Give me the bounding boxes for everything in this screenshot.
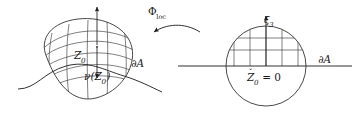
diagram-canvas <box>0 0 358 115</box>
label-phi-loc: Φloc <box>148 6 166 20</box>
nu-symbol: ν(Z <box>84 70 102 82</box>
label-boundary-left: ∂A <box>131 58 144 69</box>
label-Z0-equals-zero: ˇZ0 = 0 <box>247 72 281 85</box>
curvilinear-grid <box>39 20 140 100</box>
accent-mark: ˇ <box>248 69 252 77</box>
phi-loc-arrow-group <box>154 25 200 32</box>
phi-subscript: loc <box>156 13 166 21</box>
label-boundary-right: ∂A <box>318 54 331 65</box>
nu-subscript: 0 <box>102 77 107 86</box>
Z-subscript-right: 0 <box>254 78 259 87</box>
label-Z0-left: Z0 <box>74 50 86 63</box>
point-Z0-marker <box>96 46 98 48</box>
nu-close-paren: ) <box>106 70 110 82</box>
set-A-left: A <box>136 57 144 69</box>
set-A-right: A <box>323 53 331 65</box>
label-xi3-axis: ξ3 <box>264 15 274 28</box>
Z-equation-right: = 0 <box>259 71 281 83</box>
xi-subscript: 3 <box>269 21 273 29</box>
phi-loc-arrow-curve <box>154 25 200 32</box>
left-panel-group <box>18 7 162 100</box>
Z-subscript-left: 0 <box>81 56 86 65</box>
region-outline <box>44 19 132 99</box>
label-normal-vector: ν(Z0) <box>84 71 110 84</box>
figure-local-flattening: Φloc Z0 ν(Z0) ∂A ξ3 ˇZ0 = 0 ∂A <box>0 0 358 115</box>
